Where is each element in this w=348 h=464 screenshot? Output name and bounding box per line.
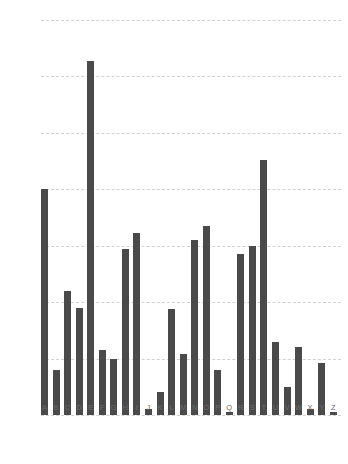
x-axis-tick-label: X	[304, 403, 316, 412]
gridline	[41, 20, 341, 21]
x-axis-tick-label: Q	[223, 403, 235, 412]
x-axis-tick-label: P	[212, 403, 224, 412]
x-axis-tick-label: S	[246, 403, 258, 412]
x-axis-tick-label: D	[73, 403, 85, 412]
gridline	[41, 76, 341, 77]
bar	[237, 254, 244, 415]
x-axis-tick-label: U	[270, 403, 282, 412]
bar	[122, 249, 129, 415]
x-axis-tick-label: J	[142, 403, 154, 412]
x-axis-tick-label: T	[258, 403, 270, 412]
x-axis-tick-label: C	[62, 403, 74, 412]
x-axis-baseline	[41, 415, 341, 416]
gridline	[41, 189, 341, 190]
x-axis-tick-label: A	[39, 403, 51, 412]
plot-area: 00.020.040.060.080.10.120.14	[41, 20, 341, 415]
bar	[87, 61, 94, 415]
bar	[41, 189, 48, 415]
bar	[203, 226, 210, 415]
bar	[133, 233, 140, 415]
x-axis-tick-label: Y	[316, 403, 328, 412]
bar	[64, 291, 71, 415]
x-axis-tick-label: F	[96, 403, 108, 412]
x-axis-tick-label: G	[108, 403, 120, 412]
x-axis-tick-label: H	[119, 403, 131, 412]
x-axis-tick-label: M	[177, 403, 189, 412]
bar	[168, 309, 175, 415]
x-axis-tick-label: R	[235, 403, 247, 412]
x-axis-tick-label: O	[200, 403, 212, 412]
x-axis-tick-label: V	[281, 403, 293, 412]
x-axis-tick-label: E	[85, 403, 97, 412]
bar	[76, 308, 83, 415]
bar	[260, 160, 267, 415]
bar	[226, 412, 233, 415]
x-axis-tick-label: B	[50, 403, 62, 412]
bar	[330, 412, 337, 415]
x-axis-tick-label: K	[154, 403, 166, 412]
x-axis-tick-label: L	[166, 403, 178, 412]
x-axis-tick-label: N	[189, 403, 201, 412]
x-axis-tick-label: I	[131, 403, 143, 412]
bar-chart: 00.020.040.060.080.10.120.14 ABCDEFGHIJK…	[0, 0, 348, 464]
x-axis-tick-label: W	[293, 403, 305, 412]
bar	[191, 240, 198, 415]
x-axis-tick-label: Z	[327, 403, 339, 412]
gridline	[41, 133, 341, 134]
bar	[249, 246, 256, 415]
